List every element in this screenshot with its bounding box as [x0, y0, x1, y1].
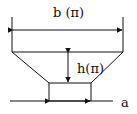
trapezoid-left-slope — [12, 52, 49, 83]
trapezoid-channel-diagram: b (π) h(π) a — [0, 0, 137, 114]
base-label: a — [121, 95, 129, 110]
height-label: h(π) — [77, 61, 104, 76]
width-label: b (π) — [53, 5, 84, 20]
